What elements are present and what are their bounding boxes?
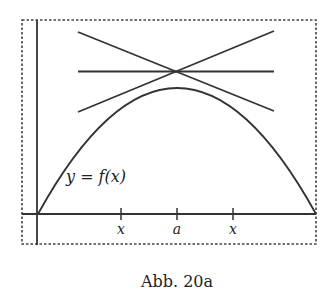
curve: [38, 88, 316, 214]
curve-label: y = f(x): [65, 167, 126, 186]
tick-label-x-right: x: [229, 221, 237, 237]
figure-caption: Abb. 20a: [140, 272, 214, 291]
tick-label-a: a: [173, 221, 181, 237]
dashed-frame: [22, 20, 316, 244]
figure: y = f(x) x a x Abb. 20a: [0, 0, 333, 299]
tick-label-x-left: x: [117, 221, 125, 237]
